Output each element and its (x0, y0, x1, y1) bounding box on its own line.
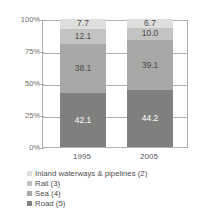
legend-label: Sea (4) (35, 189, 61, 198)
bar-segment-value: 38.1 (75, 64, 92, 73)
x-axis-label-1995: 1995 (52, 152, 112, 161)
bar-2005[interactable]: 6.710.039.144.2 (127, 19, 173, 147)
bar-1995[interactable]: 7.712.138.142.1 (60, 19, 106, 147)
bar-segment[interactable]: 42.1 (60, 93, 106, 147)
y-axis: 100%75%50%25%0% (0, 20, 40, 148)
legend-label: Road (5) (35, 199, 65, 208)
legend-label: Rail (3) (35, 179, 60, 188)
bar-segment-value: 12.1 (75, 32, 92, 41)
bar-segment[interactable]: 38.1 (60, 44, 106, 93)
y-tick-label: 25% (4, 112, 40, 120)
legend-item[interactable]: Road (5) (27, 198, 199, 208)
legend-item[interactable]: Rail (3) (27, 178, 199, 188)
bar-segment-value: 42.1 (75, 116, 92, 125)
bar-segment[interactable]: 6.7 (127, 19, 173, 28)
chart-screenshot: 100%75%50%25%0% 7.712.138.142.1 6.710.03… (0, 0, 202, 215)
plot-area: 7.712.138.142.1 6.710.039.144.2 (42, 20, 188, 148)
legend-label: Inland waterways & pipelines (2) (35, 169, 147, 178)
bar-segment-value: 39.1 (142, 61, 159, 70)
legend: Inland waterways & pipelines (2)Rail (3)… (27, 168, 199, 208)
bar-segment[interactable]: 7.7 (60, 19, 106, 29)
y-tick-label: 75% (4, 48, 40, 56)
legend-swatch-icon (27, 171, 32, 176)
x-axis-label-2005: 2005 (119, 152, 179, 161)
bar-segment-value: 10.0 (142, 29, 159, 38)
bar-segment[interactable]: 44.2 (127, 90, 173, 147)
bar-segment-value: 7.7 (77, 19, 89, 28)
y-tick-label: 100% (4, 16, 40, 24)
legend-item[interactable]: Sea (4) (27, 188, 199, 198)
y-tick-label: 50% (4, 80, 40, 88)
bar-segment[interactable]: 10.0 (127, 28, 173, 41)
legend-swatch-icon (27, 191, 32, 196)
legend-item[interactable]: Inland waterways & pipelines (2) (27, 168, 199, 178)
bar-segment-value: 44.2 (142, 114, 159, 123)
y-tick-label: 0% (4, 144, 40, 152)
bar-segment-value: 6.7 (144, 19, 156, 28)
bar-segment[interactable]: 39.1 (127, 40, 173, 90)
bar-segment[interactable]: 12.1 (60, 29, 106, 44)
legend-swatch-icon (27, 201, 32, 206)
legend-swatch-icon (27, 181, 32, 186)
